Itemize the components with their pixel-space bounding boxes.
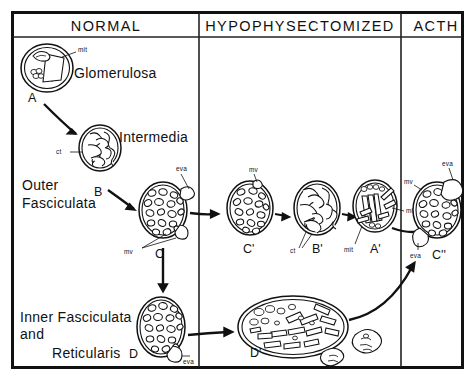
cell-label-A: A [28, 91, 37, 105]
organelle-label-eva-C: eva [176, 165, 187, 172]
zone-label-inner-2: and [20, 326, 44, 342]
zone-label-intermedia: Intermedia [119, 129, 188, 145]
column-header-normal: NORMAL [71, 18, 141, 34]
cell-Cdoubleprime-evagination-top [441, 180, 463, 201]
organelle-label-eva-Cdoubleprime-top: eva [442, 160, 453, 167]
organelle-label-mit-Aprime-left: mit [344, 246, 353, 253]
organelle-label-mv-Cdoubleprime: mv [404, 178, 414, 185]
cell-label-Dprime: D' [250, 346, 261, 360]
cell-label-Cdoubleprime: C'' [432, 248, 446, 262]
cell-label-Aprime: A' [370, 242, 381, 256]
zone-label-outer-fasciculata-1: Outer [22, 177, 59, 193]
cell-C-evagination-top [180, 187, 194, 200]
organelle-label-eva-Cdoubleprime-bottom: eva [410, 252, 421, 259]
zone-label-outer-fasciculata-2: Fasciculata [22, 195, 96, 211]
organelle-label-eva-D: eva [183, 358, 194, 365]
organelle-label-mit-A: mit [78, 46, 87, 53]
figure-container: NORMAL HYPOPHYSECTOMIZED ACTH mit A Glom [0, 0, 473, 380]
column-header-acth: ACTH [413, 18, 458, 34]
cell-label-Cprime: C' [243, 242, 254, 256]
zone-label-inner-3: Reticularis [52, 345, 121, 361]
column-header-hypophysectomized: HYPOPHYSECTOMIZED [205, 18, 395, 34]
organelle-label-mv-C: mv [124, 248, 134, 255]
cell-label-Bprime: B' [312, 242, 323, 256]
cell-label-D: D [129, 347, 138, 361]
cell-A-lipid-droplets [31, 69, 44, 79]
diagram-canvas: NORMAL HYPOPHYSECTOMIZED ACTH mit A Glom [0, 0, 473, 380]
organelle-label-mv-Cprime: mv [249, 166, 259, 173]
organelle-label-ct-Bprime: ct [290, 247, 295, 254]
cell-Cprime-microvillus [253, 180, 262, 189]
zone-label-glomerulosa: Glomerulosa [74, 65, 157, 81]
zone-label-inner-1: Inner Fasciculata [20, 309, 132, 325]
organelle-label-ct-B: ct [56, 148, 61, 155]
